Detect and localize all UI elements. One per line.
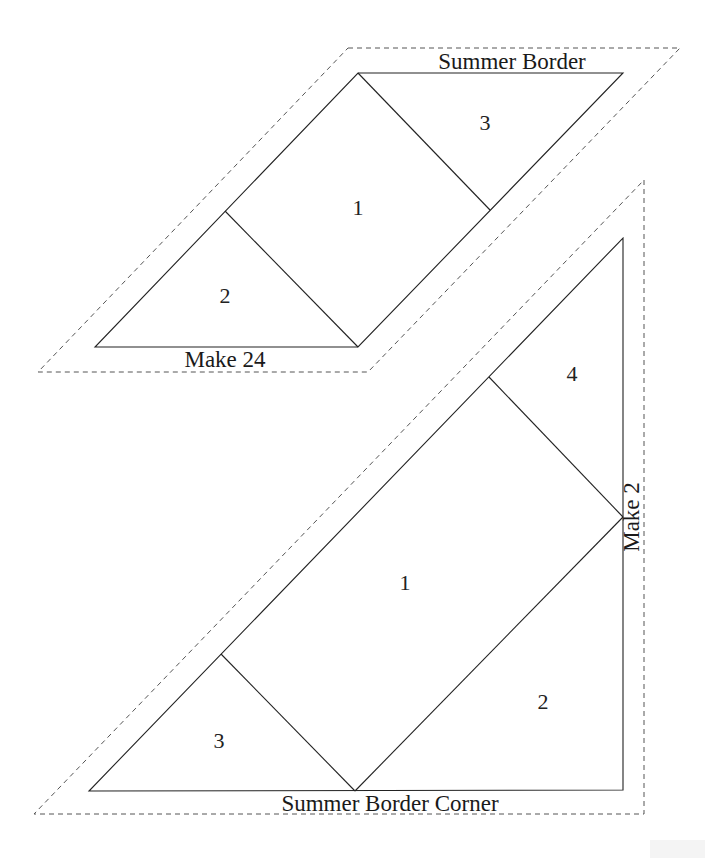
piece-1-number: 1 xyxy=(353,195,364,220)
cutting-line xyxy=(34,180,644,814)
template-title: Summer Border xyxy=(438,49,586,74)
seam-line xyxy=(221,654,355,791)
quantity-label: Make 2 xyxy=(619,482,644,552)
piece-4-number: 4 xyxy=(567,361,578,386)
template-summer-border-corner: 4 1 2 3 Summer Border Corner Make 2 xyxy=(34,180,644,816)
piece-1-number: 1 xyxy=(400,570,411,595)
seam-line xyxy=(225,211,358,347)
template-summer-border: 3 1 2 Summer Border Make 24 xyxy=(38,48,680,372)
seam-line xyxy=(489,377,623,517)
seam-line xyxy=(358,73,490,210)
piece-3-number: 3 xyxy=(214,728,225,753)
piece-2-number: 2 xyxy=(538,689,549,714)
piece-2-number: 2 xyxy=(220,283,231,308)
watermark xyxy=(650,840,705,858)
piece-3-number: 3 xyxy=(480,110,491,135)
template-title: Summer Border Corner xyxy=(281,791,499,816)
quantity-label: Make 24 xyxy=(184,347,266,372)
seam-line xyxy=(355,517,623,791)
pattern-diagram: 3 1 2 Summer Border Make 24 4 1 2 3 Summ… xyxy=(0,0,705,858)
